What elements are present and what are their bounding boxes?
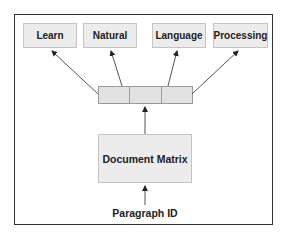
document-matrix-label: Document Matrix (102, 153, 187, 165)
word-box-language: Language (152, 23, 206, 48)
paragraph-id-label: Paragraph ID (112, 207, 177, 219)
vector-cell (161, 86, 193, 104)
word-label: Learn (36, 30, 63, 41)
document-matrix-box: Document Matrix (98, 134, 192, 183)
vector-cell (129, 86, 162, 104)
word-label: Language (155, 30, 202, 41)
word-label: Processing (214, 30, 268, 41)
vector-cell (98, 86, 130, 104)
word-box-processing: Processing (213, 23, 268, 48)
word-label: Natural (93, 30, 127, 41)
word-box-learn: Learn (23, 23, 77, 48)
word-box-natural: Natural (83, 23, 137, 48)
